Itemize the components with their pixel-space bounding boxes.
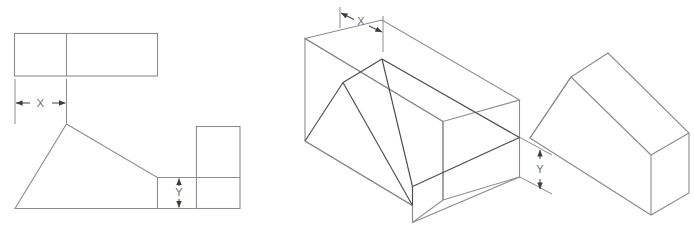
dimension-y2-label: Y: [536, 163, 544, 175]
front-view-outline: [15, 124, 158, 209]
wedge-base-edge-right: [413, 138, 520, 187]
dimension-y-view2: Y: [520, 138, 552, 195]
isometric-box-left-face: [305, 39, 443, 223]
dimension-x-label: X: [37, 97, 45, 109]
dimension-x-view2: X: [340, 7, 383, 52]
isometric-box-bottom-edge-left: [305, 141, 413, 206]
top-view-rectangle: [15, 34, 158, 77]
wedge-slope-edge-center: [382, 59, 413, 187]
dimension-y2-extension-top: [520, 138, 552, 156]
view-isometric-dimensioned: X Y: [305, 7, 552, 223]
view-orthographic-multiview: X Y: [15, 34, 241, 209]
dimension-y-view1: Y: [158, 178, 196, 209]
dimension-y-label: Y: [175, 186, 183, 198]
solid-left-gable-edge: [530, 77, 571, 138]
isometric-box-top-face: [305, 20, 520, 122]
dimension-y2-extension-bottom: [520, 177, 552, 194]
dimension-x-view1: X: [15, 79, 67, 124]
side-view-outline: [197, 127, 241, 209]
engineering-drawing-canvas: X Y: [0, 0, 694, 232]
side-view-rectangle: [197, 127, 241, 209]
solid-ridge-line: [571, 77, 651, 155]
wedge-edge-to-left-corner: [305, 83, 343, 142]
solid-silhouette: [530, 53, 689, 215]
top-view-outline: [15, 34, 158, 77]
dimension-x2-arrow-right: [369, 26, 382, 32]
dimension-x2-label: X: [357, 15, 365, 27]
isometric-box-right-face: [443, 100, 520, 200]
front-view-profile: [15, 124, 158, 209]
wedge-top-ridge-left: [343, 59, 382, 83]
view-isometric-solid: [530, 53, 689, 215]
wedge-slope-edge-back: [382, 59, 520, 138]
solid-end-face-top-edge: [651, 133, 689, 155]
figure-root: X Y: [0, 0, 694, 232]
isometric-box-bottom-edge-right: [413, 177, 520, 223]
dimension-x2-arrow-left: [341, 13, 354, 20]
